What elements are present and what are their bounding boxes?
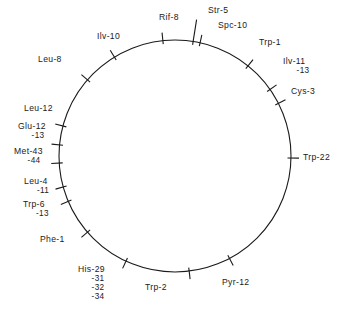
marker-label-trp-22: Trp-22: [303, 152, 330, 162]
tick-spc-10: [199, 35, 201, 46]
marker-sublabel-ilv-11-0: -13: [297, 66, 310, 75]
tick-trp-2: [189, 268, 190, 279]
marker-label-leu-4: Leu-4: [24, 176, 48, 186]
marker-sublabel-met-43-0: -44: [28, 156, 41, 165]
map-label-layer: Rif-8Str-5Spc-10Trp-1Ilv-11-13Cys-3Trp-2…: [14, 5, 330, 301]
marker-label-cys-3: Cys-3: [291, 86, 315, 96]
marker-label-rif-8: Rif-8: [159, 12, 179, 22]
marker-label-phe-1: Phe-1: [40, 234, 65, 244]
marker-label-glu-12: Glu-12: [18, 121, 46, 131]
marker-sublabel-his-29-0: -31: [92, 274, 105, 283]
tick-met-43: [51, 163, 62, 164]
marker-label-ilv-11: Ilv-11: [283, 56, 305, 66]
tick-rif-8: [162, 33, 163, 44]
tick-glu-12: [52, 144, 63, 145]
marker-sublabel-trp-6-0: -13: [36, 209, 49, 218]
map-tick-layer: [51, 20, 299, 279]
marker-label-his-29: His-29: [78, 264, 105, 274]
marker-sublabel-leu-4-0: -11: [37, 186, 49, 195]
map-circle: [59, 40, 291, 272]
marker-sublabel-glu-12-0: -13: [32, 131, 45, 140]
marker-label-ilv-10: Ilv-10: [97, 31, 120, 41]
marker-label-trp-2: Trp-2: [145, 282, 167, 292]
genetic-map-svg: Rif-8Str-5Spc-10Trp-1Ilv-11-13Cys-3Trp-2…: [0, 0, 360, 314]
marker-label-spc-10: Spc-10: [218, 20, 247, 30]
circular-genetic-map-figure: Rif-8Str-5Spc-10Trp-1Ilv-11-13Cys-3Trp-2…: [0, 0, 360, 314]
marker-label-pyr-12: Pyr-12: [222, 277, 249, 287]
marker-label-trp-6: Trp-6: [23, 199, 45, 209]
marker-label-leu-12: Leu-12: [24, 103, 53, 113]
marker-label-trp-1: Trp-1: [259, 37, 281, 47]
tick-leu-12: [55, 124, 66, 127]
tick-leu-4: [56, 186, 67, 189]
map-circle-layer: [59, 40, 291, 272]
marker-sublabel-his-29-1: -32: [92, 283, 105, 292]
marker-sublabel-his-29-2: -34: [92, 292, 105, 301]
marker-label-met-43: Met-43: [14, 146, 43, 156]
marker-label-str-5: Str-5: [208, 5, 228, 15]
marker-label-leu-8: Leu-8: [38, 54, 62, 64]
